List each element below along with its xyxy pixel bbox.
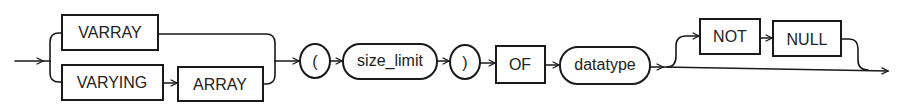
nonterminal-datatype: datatype [560,47,650,84]
keyword-of-box: OF [496,46,545,83]
nonterminal-size-limit: size_limit [343,44,437,79]
keyword-varying: VARYING [77,74,148,91]
keyword-array: ARRAY [193,76,247,93]
keyword-not-box: NOT [700,19,760,54]
symbol-close-paren: ) [450,45,480,79]
keyword-null-box: NULL [773,21,841,56]
left-branch-connector [50,33,62,82]
keyword-not: NOT [713,28,747,45]
keyword-varray: VARRAY [78,24,142,41]
svg-text:size_limit: size_limit [357,52,423,70]
keyword-array-box: ARRAY [178,67,263,101]
null-rejoin-connector [841,39,868,70]
symbol-open-paren: ( [300,44,330,78]
svg-text:): ) [462,54,467,71]
exit-arrow [663,67,888,71]
syntax-diagram: VARRAY VARYING ARRAY ( size_limit ) OF [0,0,903,112]
keyword-varray-box: VARRAY [62,15,158,50]
keyword-null: NULL [787,31,828,48]
keyword-of: OF [509,56,531,73]
optional-not-null-branch [667,36,699,67]
svg-text:(: ( [312,53,318,70]
keyword-varying-box: VARYING [62,65,163,100]
svg-text:datatype: datatype [574,56,635,73]
